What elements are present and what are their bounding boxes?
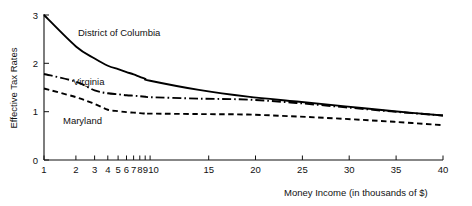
x-tick-label-25: 25 [297, 164, 308, 175]
y-tick-label-1: 1 [33, 106, 38, 117]
series-label-virginia: Virginia [73, 76, 105, 87]
y-tick-label-2: 2 [33, 58, 38, 69]
x-tick-label-20: 20 [250, 164, 261, 175]
x-tick-label-30: 30 [344, 164, 355, 175]
x-tick-label-1: 1 [41, 164, 46, 175]
effective-tax-rates-chart: 0 1 2 3 1 2 3 4 5 6 7 [0, 0, 472, 206]
x-axis-ticks [44, 156, 443, 161]
series-label-maryland: Maryland [63, 115, 102, 126]
y-tick-label-3: 3 [33, 10, 38, 21]
x-axis-title: Money Income (in thousands of $) [284, 187, 428, 198]
x-tick-label-35: 35 [391, 164, 402, 175]
x-tick-label-4: 4 [105, 164, 110, 175]
x-tick-label-5: 5 [115, 164, 120, 175]
x-tick-label-10: 10 [148, 164, 159, 175]
y-tick-label-0: 0 [33, 155, 38, 166]
x-tick-label-15: 15 [203, 164, 214, 175]
y-axis-ticks [44, 15, 49, 160]
series-label-district-of-columbia: District of Columbia [78, 27, 161, 38]
series-line-maryland [44, 88, 443, 125]
y-axis-title: Effective Tax Rates [8, 47, 19, 128]
chart-svg: 0 1 2 3 1 2 3 4 5 6 7 [0, 0, 472, 206]
x-tick-label-7: 7 [131, 164, 136, 175]
x-tick-label-3: 3 [92, 164, 97, 175]
x-tick-label-2: 2 [73, 164, 78, 175]
x-tick-label-40: 40 [438, 164, 449, 175]
x-tick-label-8: 8 [137, 164, 142, 175]
x-tick-label-6: 6 [124, 164, 129, 175]
